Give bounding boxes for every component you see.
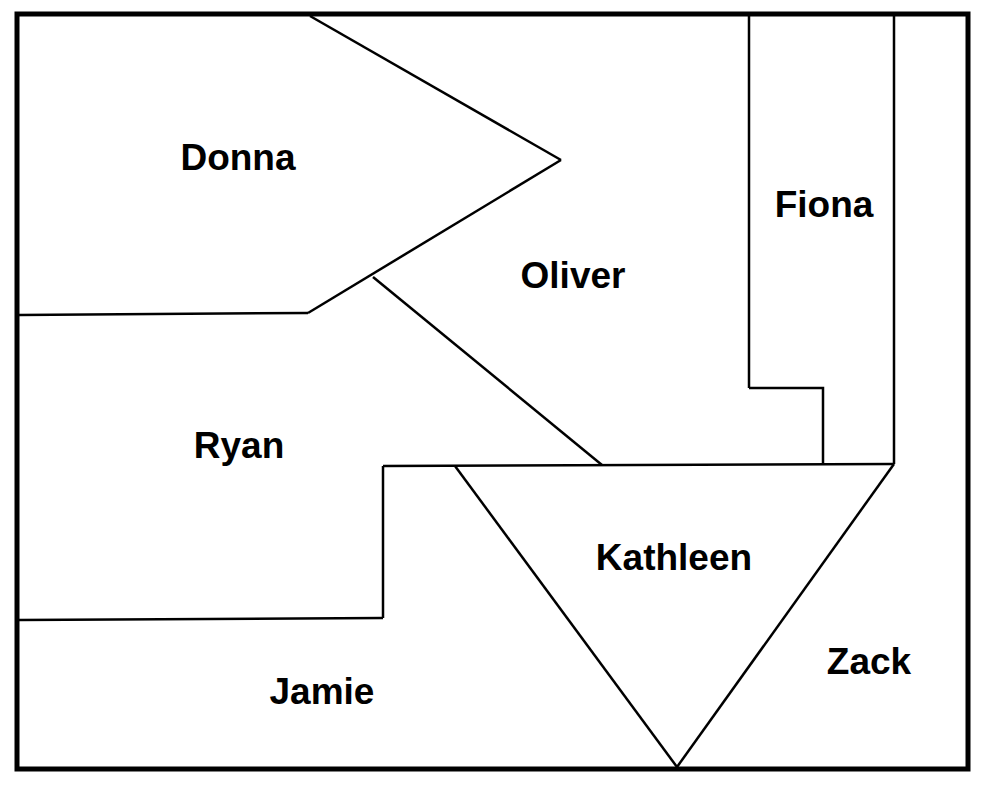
region-label-oliver: Oliver [521,257,626,294]
region-label-ryan: Ryan [194,427,284,464]
region-label-zack: Zack [827,643,911,680]
region-label-donna: Donna [180,139,295,176]
region-label-jamie: Jamie [270,673,375,710]
region-label-fiona: Fiona [775,186,874,223]
region-label-kathleen: Kathleen [596,539,752,576]
diagram-frame [17,14,968,769]
